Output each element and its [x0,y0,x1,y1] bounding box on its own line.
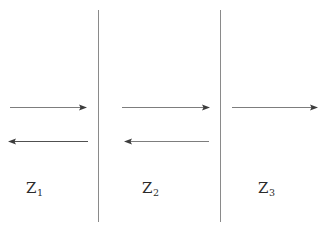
incident-wave-region-1 [10,104,87,110]
region-label-z3: Z3 [258,181,275,197]
region-label-z2-base: Z [142,179,152,197]
region-label-z3-subscript: 3 [268,187,275,198]
incident-wave-region-2 [122,104,210,110]
reflected-wave-region-2 [124,138,209,144]
region-label-z2: Z2 [142,181,159,197]
region-label-z2-subscript: 2 [152,187,159,198]
impedance-regions-figure: Z1 Z2 Z3 [0,0,324,229]
region-label-z1-subscript: 1 [36,187,43,198]
region-label-z1: Z1 [26,181,43,197]
region-label-z3-base: Z [258,179,268,197]
transmitted-wave-region-3 [232,104,318,110]
figure-canvas [0,0,324,229]
reflected-wave-region-1 [8,138,88,144]
region-label-z1-base: Z [26,179,36,197]
